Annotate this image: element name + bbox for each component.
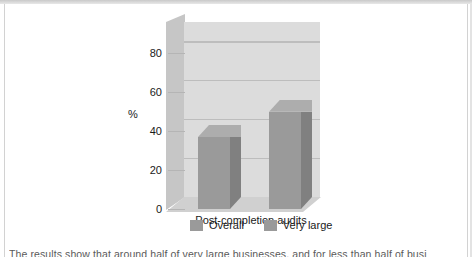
page-border-top [0, 0, 472, 4]
bar-top-face [198, 125, 241, 137]
legend-item: Overall [190, 219, 244, 231]
chart-side-wall [166, 14, 185, 210]
axis-tick [168, 53, 185, 54]
chart-legend: OverallVery large [190, 219, 332, 231]
axis-tick [168, 170, 185, 171]
bar-side-face [230, 137, 241, 209]
legend-swatch [264, 220, 277, 231]
bar-very-large [269, 100, 301, 209]
y-axis-tick-label: 0 [156, 203, 162, 215]
figure-caption: The results show that around half of ver… [9, 248, 461, 257]
axis-tick [168, 92, 185, 93]
bar-top-face [269, 100, 312, 112]
document-page: 020406080 % Post-completion audits Overa… [0, 0, 472, 257]
legend-item: Very large [264, 219, 333, 231]
y-axis-tick-label: 80 [150, 47, 162, 59]
bar-front-face [198, 137, 230, 209]
y-axis-tick-label: 60 [150, 86, 162, 98]
bar-front-face [269, 112, 301, 209]
bar-chart-3d: 020406080 % Post-completion audits [166, 14, 326, 204]
page-border-left [4, 4, 5, 257]
legend-label: Overall [209, 219, 244, 231]
gridline [184, 42, 320, 43]
legend-swatch [190, 220, 203, 231]
y-axis-tick-label: 20 [150, 164, 162, 176]
gridline [184, 80, 320, 81]
page-border-right [467, 4, 468, 257]
y-axis-label: % [128, 108, 138, 120]
legend-label: Very large [283, 219, 333, 231]
y-axis-tick-label: 40 [150, 125, 162, 137]
axis-tick [168, 131, 185, 132]
bar-overall [198, 125, 230, 209]
bar-side-face [301, 112, 312, 209]
axis-tick [168, 209, 185, 210]
